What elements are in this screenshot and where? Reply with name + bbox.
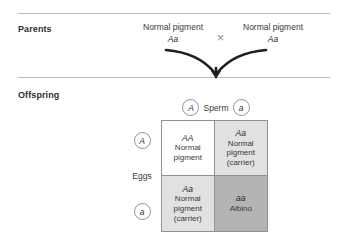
cross-multiply-icon: × bbox=[214, 31, 227, 44]
sperm-axis-label: Sperm bbox=[203, 103, 228, 113]
punnett-cell-Aa-top-phenotype-line3: (carrier) bbox=[227, 158, 255, 168]
punnett-grid: AA Normal pigment Aa Normal pigment (car… bbox=[161, 120, 268, 232]
punnett-cell-AA-phenotype-line1: Normal bbox=[175, 143, 201, 153]
punnett-cell-Aa-top-phenotype-line2: pigment bbox=[227, 148, 255, 158]
punnett-cell-Aa-bottom-phenotype-line1: Normal bbox=[175, 194, 201, 204]
offspring-section-label: Offspring bbox=[18, 90, 59, 100]
punnett-cell-Aa-top-genotype: Aa bbox=[236, 128, 246, 138]
parents-cross-diagram: Normal pigment Aa × Normal pigment Aa bbox=[118, 20, 328, 78]
eggs-axis: A Eggs a bbox=[125, 120, 159, 232]
punnett-square-diagram: A Sperm a A Eggs a AA Normal pigment Aa … bbox=[120, 98, 280, 238]
egg-allele-2: a bbox=[134, 203, 151, 220]
punnett-cell-AA: AA Normal pigment bbox=[162, 121, 215, 176]
punnett-cell-aa-genotype: aa bbox=[236, 193, 245, 203]
parents-section-label: Parents bbox=[18, 24, 52, 34]
parent-mother: Normal pigment Aa bbox=[132, 22, 214, 44]
egg-allele-1: A bbox=[134, 132, 151, 149]
scan-edge-artifact bbox=[20, 0, 320, 5]
figure-canvas: Parents Offspring Normal pigment Aa × No… bbox=[0, 0, 342, 242]
sperm-allele-1: A bbox=[182, 99, 199, 116]
punnett-cell-Aa-bottom-phenotype-line3: (carrier) bbox=[174, 214, 202, 224]
parent-father-genotype: Aa bbox=[232, 34, 314, 45]
parent-mother-phenotype: Normal pigment bbox=[132, 22, 214, 33]
punnett-cell-AA-genotype: AA bbox=[182, 133, 193, 143]
punnett-cell-Aa-top: Aa Normal pigment (carrier) bbox=[215, 121, 268, 176]
punnett-cell-Aa-bottom: Aa Normal pigment (carrier) bbox=[162, 176, 215, 231]
punnett-cell-Aa-top-phenotype-line1: Normal bbox=[228, 139, 254, 149]
sperm-axis: A Sperm a bbox=[161, 98, 271, 117]
punnett-cell-aa-phenotype-line1: Albino bbox=[230, 204, 252, 214]
parent-father: Normal pigment Aa bbox=[232, 22, 314, 44]
punnett-cell-Aa-bottom-genotype: Aa bbox=[183, 184, 193, 194]
parent-father-phenotype: Normal pigment bbox=[232, 22, 314, 33]
divider-above-parents bbox=[18, 13, 330, 14]
parent-mother-genotype: Aa bbox=[132, 34, 214, 45]
punnett-cell-AA-phenotype-line2: pigment bbox=[174, 153, 202, 163]
punnett-cell-aa: aa Albino bbox=[215, 176, 268, 231]
eggs-axis-label: Eggs bbox=[132, 171, 151, 181]
punnett-cell-Aa-bottom-phenotype-line2: pigment bbox=[174, 204, 202, 214]
sperm-allele-2: a bbox=[233, 99, 250, 116]
